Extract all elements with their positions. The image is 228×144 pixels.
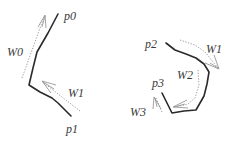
label-w0: W0 [7,46,23,58]
left-figure [22,14,80,116]
window-w1-right-arrowhead-icon [205,55,219,69]
label-w3: W3 [130,106,146,118]
label-p3: p3 [152,77,164,89]
label-p0: p0 [64,10,76,22]
label-w1-left: W1 [68,87,84,99]
label-w2: W2 [177,69,193,81]
window-w3-arrowhead-icon [153,97,161,109]
diagram-canvas [0,0,228,144]
window-w2-arrowhead-icon [173,100,188,108]
label-w1-right: W1 [206,43,222,55]
label-p1: p1 [66,123,78,135]
label-p2: p2 [145,38,157,50]
stroke-path-p0-p1 [29,14,71,116]
